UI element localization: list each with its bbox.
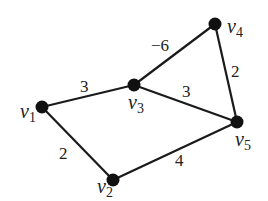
- edge-weight-v3-v4: −6: [151, 36, 169, 55]
- edge-weights-group: 3−63224: [59, 36, 240, 170]
- edge-weight-v1-v2: 2: [59, 144, 68, 163]
- edge-weight-v3-v5: 3: [182, 82, 191, 101]
- edge-weight-v4-v5: 2: [231, 62, 240, 81]
- node-labels-group: v1v2v3v4v5: [20, 15, 251, 200]
- edge-v3-v4: [134, 24, 215, 85]
- graph-diagram: 3−63224 v1v2v3v4v5: [0, 0, 268, 201]
- node-label-v5: v5: [235, 128, 251, 153]
- node-label-v1: v1: [20, 100, 36, 125]
- edge-v1-v2: [42, 107, 113, 180]
- node-label-v3: v3: [128, 91, 144, 116]
- node-v5: [231, 116, 244, 129]
- node-label-v4: v4: [227, 15, 243, 40]
- edge-weight-v1-v3: 3: [80, 77, 89, 96]
- edge-weight-v2-v5: 4: [175, 151, 184, 170]
- node-v4: [209, 18, 222, 31]
- node-v1: [36, 101, 49, 114]
- node-v3: [128, 79, 141, 92]
